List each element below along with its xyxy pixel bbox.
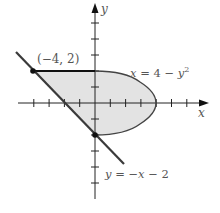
point-neg4-2 bbox=[30, 68, 36, 74]
point-label: (−4, 2) bbox=[37, 52, 79, 66]
line-label: y = −x − 2 bbox=[104, 167, 169, 181]
region-diagram: y x (−4, 2) x = 4 − y2 y = −x − 2 bbox=[0, 0, 220, 213]
point-0-neg2 bbox=[92, 132, 98, 138]
curve-label: x = 4 − y2 bbox=[130, 65, 189, 80]
y-axis-label: y bbox=[100, 2, 108, 16]
y-axis-arrow-icon bbox=[92, 3, 99, 13]
x-axis-label: x bbox=[198, 106, 205, 120]
